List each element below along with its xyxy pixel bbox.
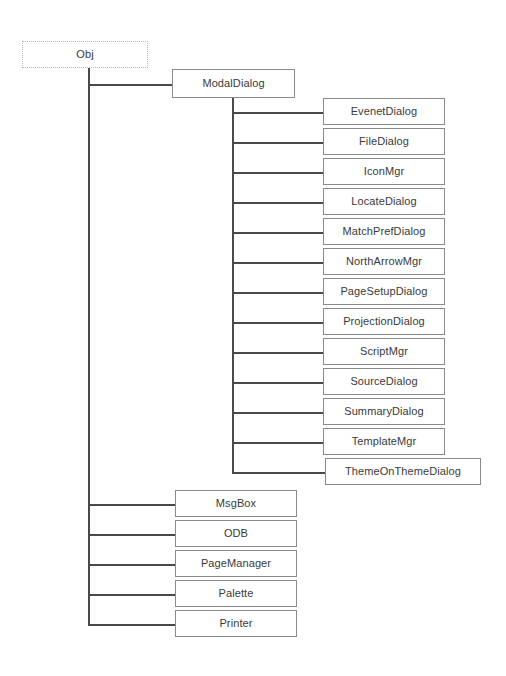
node-modaldialog[interactable]: ModalDialog xyxy=(172,69,295,98)
connector-to-northarrowmgr xyxy=(232,262,323,264)
connector-to-sourcedialog xyxy=(232,382,323,384)
node-projectiondialog[interactable]: ProjectionDialog xyxy=(323,308,445,335)
connector-to-msgbox xyxy=(88,504,175,506)
node-themeonthemedialog[interactable]: ThemeOnThemeDialog xyxy=(325,458,481,485)
node-locatedialog[interactable]: LocateDialog xyxy=(323,188,445,215)
connector-to-printer xyxy=(88,624,175,626)
connector-to-filedialog xyxy=(232,142,323,144)
node-printer[interactable]: Printer xyxy=(175,610,297,637)
node-filedialog[interactable]: FileDialog xyxy=(323,128,445,155)
node-pagemanager[interactable]: PageManager xyxy=(175,550,297,577)
connector-to-projectiondialog xyxy=(232,322,323,324)
node-evenetdialog[interactable]: EvenetDialog xyxy=(323,98,445,125)
node-msgbox[interactable]: MsgBox xyxy=(175,490,297,517)
node-palette[interactable]: Palette xyxy=(175,580,297,607)
node-matchprefdialog[interactable]: MatchPrefDialog xyxy=(323,218,445,245)
node-obj[interactable]: Obj xyxy=(22,41,148,68)
node-odb[interactable]: ODB xyxy=(175,520,297,547)
connector-to-scriptmgr xyxy=(232,352,323,354)
connector-to-evenetdialog xyxy=(232,112,323,114)
connector-to-pagemanager xyxy=(88,564,175,566)
connector-to-templatemgr xyxy=(232,442,323,444)
connector-to-themeonthemedialog xyxy=(232,472,325,474)
node-sourcedialog[interactable]: SourceDialog xyxy=(323,368,445,395)
node-summarydialog[interactable]: SummaryDialog xyxy=(323,398,445,425)
diagram-canvas: Obj ModalDialog EvenetDialogFileDialogIc… xyxy=(0,0,506,676)
modal-trunk-line xyxy=(232,98,234,472)
node-iconmgr[interactable]: IconMgr xyxy=(323,158,445,185)
node-pagesetupdialog[interactable]: PageSetupDialog xyxy=(323,278,445,305)
obj-trunk-line xyxy=(88,68,90,624)
connector-to-palette xyxy=(88,594,175,596)
connector-to-odb xyxy=(88,534,175,536)
connector-to-matchprefdialog xyxy=(232,232,323,234)
connector-to-pagesetupdialog xyxy=(232,292,323,294)
connector-to-summarydialog xyxy=(232,412,323,414)
connector-to-iconmgr xyxy=(232,172,323,174)
connector-to-locatedialog xyxy=(232,202,323,204)
obj-to-modal-connector xyxy=(88,84,172,86)
node-scriptmgr[interactable]: ScriptMgr xyxy=(323,338,445,365)
node-northarrowmgr[interactable]: NorthArrowMgr xyxy=(323,248,445,275)
node-templatemgr[interactable]: TemplateMgr xyxy=(323,428,445,455)
